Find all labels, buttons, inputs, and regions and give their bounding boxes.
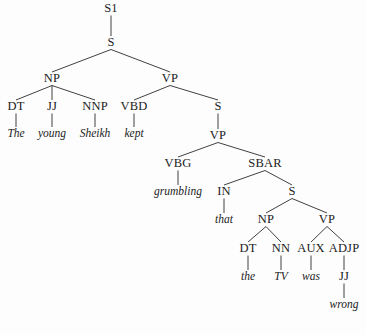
tree-node-aux: AUX	[297, 241, 325, 255]
tree-leaf-that: that	[215, 213, 234, 225]
tree-edge	[311, 227, 327, 243]
tree-node-s: S	[107, 35, 114, 49]
tree-node-vp: VP	[319, 212, 335, 226]
tree-edge	[224, 171, 265, 186]
parse-tree-canvas: S1SNPVPDTJJNNPVBDTheyoungSheikhkeptSVPVB…	[0, 0, 366, 335]
tree-edge	[52, 50, 111, 73]
tree-edge	[265, 171, 292, 186]
tree-leaf-tv: TV	[274, 270, 289, 282]
tree-node-s1: S1	[104, 1, 118, 15]
tree-node-s: S	[214, 99, 221, 113]
tree-edge	[266, 199, 292, 214]
tree-edge	[111, 50, 170, 73]
tree-leaf-was: was	[302, 270, 320, 282]
tree-node-adjp: ADJP	[329, 241, 360, 255]
tree-edge	[52, 86, 95, 101]
tree-node-in: IN	[217, 184, 231, 198]
node-layer: S1SNPVPDTJJNNPVBDTheyoungSheikhkeptSVPVB…	[7, 1, 359, 311]
tree-edge	[292, 199, 327, 214]
tree-edge	[134, 86, 170, 101]
parse-tree-figure: S1SNPVPDTJJNNPVBDTheyoungSheikhkeptSVPVB…	[0, 0, 366, 335]
tree-leaf-the: The	[7, 127, 24, 139]
tree-edge	[16, 86, 52, 101]
tree-leaf-kept: kept	[124, 127, 144, 140]
tree-node-vbd: VBD	[121, 99, 148, 113]
tree-leaf-sheikh: Sheikh	[80, 127, 111, 139]
tree-node-nnp: NNP	[82, 99, 108, 113]
tree-leaf-young: young	[37, 127, 66, 140]
tree-node-np: NP	[44, 71, 60, 85]
tree-edge	[170, 86, 218, 101]
tree-edge	[248, 227, 266, 243]
tree-leaf-the: the	[241, 270, 255, 282]
tree-edge	[327, 227, 344, 243]
tree-leaf-wrong: wrong	[330, 298, 359, 311]
tree-node-dt: DT	[239, 241, 256, 255]
tree-node-jj: JJ	[339, 269, 349, 283]
tree-node-jj: JJ	[47, 99, 57, 113]
tree-node-vp: VP	[162, 71, 178, 85]
tree-edge	[266, 227, 281, 243]
tree-node-np: NP	[258, 212, 274, 226]
tree-node-nn: NN	[272, 241, 290, 255]
tree-node-sbar: SBAR	[248, 156, 282, 170]
tree-node-dt: DT	[7, 99, 24, 113]
tree-node-s: S	[288, 184, 295, 198]
tree-node-vbg: VBG	[165, 156, 192, 170]
tree-leaf-grumbling: grumbling	[154, 185, 202, 198]
tree-edge	[178, 143, 218, 158]
tree-edge	[218, 143, 265, 158]
tree-node-vp: VP	[210, 128, 226, 142]
